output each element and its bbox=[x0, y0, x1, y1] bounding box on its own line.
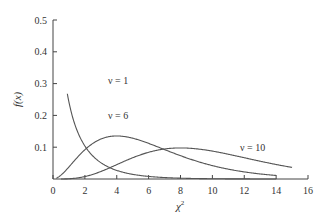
curves bbox=[56, 94, 292, 179]
x-tick-label: 8 bbox=[178, 185, 183, 196]
y-axis: 0.10.20.30.40.5 bbox=[35, 15, 58, 180]
curve-label-nu10: ν = 10 bbox=[240, 142, 265, 153]
x-axis-label: χ2 bbox=[175, 199, 185, 212]
y-axis-label: f(x) bbox=[11, 91, 24, 107]
x-tick-label: 6 bbox=[146, 185, 151, 196]
x-tick-label: 14 bbox=[271, 185, 281, 196]
curve-label-nu1: ν = 1 bbox=[108, 75, 128, 86]
x-tick-label: 16 bbox=[303, 185, 313, 196]
x-tick-label: 4 bbox=[114, 185, 119, 196]
y-tick-label: 0.4 bbox=[35, 46, 48, 57]
y-tick-label: 0.5 bbox=[35, 15, 48, 26]
y-tick-label: 0.1 bbox=[35, 142, 48, 153]
chi-square-chart: 0.10.20.30.40.5 0246810121416 ν = 1 ν = … bbox=[0, 0, 326, 224]
y-tick-label: 0.3 bbox=[35, 78, 48, 89]
x-tick-label: 0 bbox=[51, 185, 56, 196]
x-tick-label: 2 bbox=[82, 185, 87, 196]
y-tick-label: 0.2 bbox=[35, 110, 48, 121]
x-tick-label: 10 bbox=[207, 185, 217, 196]
curve-label-nu6: ν = 6 bbox=[108, 110, 128, 121]
curve-df-1 bbox=[67, 94, 276, 179]
x-tick-label: 12 bbox=[239, 185, 249, 196]
